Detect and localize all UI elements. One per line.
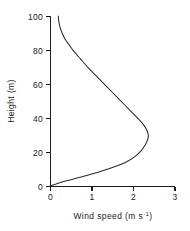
x-axis-tick-labels: 0 1 2 3: [48, 192, 178, 202]
y-tick-label-100: 100: [28, 12, 43, 22]
wind-speed-curve: [50, 16, 148, 186]
x-axis-title-main: Wind speed (m s: [73, 211, 143, 221]
y-tick-label-0: 0: [38, 182, 43, 192]
x-tick-label-1: 1: [89, 192, 94, 202]
x-tick-label-3: 3: [172, 192, 177, 202]
x-axis-title: Wind speed (m s-1): [73, 211, 152, 221]
x-axis-ticks: [51, 187, 176, 192]
y-tick-label-60: 60: [33, 80, 43, 90]
wind-speed-profile-chart: 0 20 40 60 80 100 0 1 2 3 Height (m) Win…: [0, 0, 190, 231]
chart-canvas: 0 20 40 60 80 100 0 1 2 3 Height (m) Win…: [0, 0, 190, 231]
y-axis-title: Height (m): [6, 79, 16, 123]
x-axis-title-tail: ): [149, 211, 152, 221]
y-tick-label-40: 40: [33, 114, 43, 124]
y-tick-label-80: 80: [33, 46, 43, 56]
y-axis-tick-labels: 0 20 40 60 80 100: [28, 12, 43, 192]
x-tick-label-0: 0: [48, 192, 53, 202]
y-tick-label-20: 20: [33, 148, 43, 158]
x-tick-label-2: 2: [131, 192, 136, 202]
y-axis-ticks: [46, 17, 51, 187]
